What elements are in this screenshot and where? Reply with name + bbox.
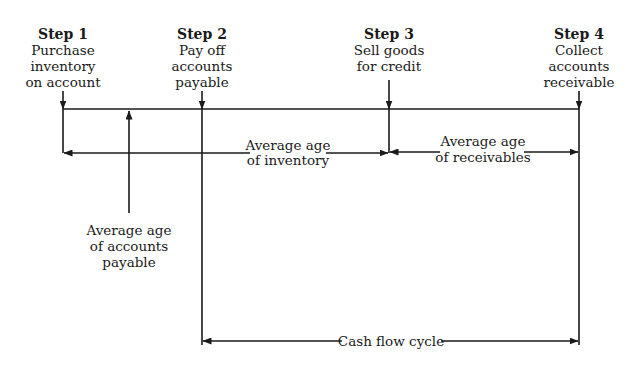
cash-flow-cycle-diagram: Step 1 Purchase inventory on account Ste… [0,0,644,368]
step-2-line-1: Pay off [179,42,227,58]
step-4-line-2: accounts [548,58,609,74]
step-3-title: Step 3 [364,26,414,42]
cash-flow-cycle-span: Cash flow cycle [203,333,578,349]
cash-flow-cycle-label: Cash flow cycle [338,333,444,349]
step-1-line-2: inventory [31,58,96,74]
step-2-line-3: payable [175,74,228,90]
step-1-label: Step 1 Purchase inventory on account [25,26,101,90]
step-4-line-3: receivable [544,74,615,90]
payable-label-line-2: of accounts [90,238,169,254]
payable-span: Average age of accounts payable [86,111,172,270]
receivables-label-line-1: Average age [440,133,526,149]
step-4-label: Step 4 Collect accounts receivable [544,26,615,90]
step-4-line-1: Collect [555,42,604,58]
payable-label-line-1: Average age [86,222,172,238]
step-2-line-2: accounts [171,58,232,74]
step-1-title: Step 1 [38,26,88,42]
receivables-label-line-2: of receivables [435,149,530,165]
step-1-line-1: Purchase [31,42,94,58]
step-1-line-3: on account [25,74,101,90]
inventory-span: Average age of inventory [64,137,388,168]
inventory-label-line-2: of inventory [247,152,330,168]
step-3-label: Step 3 Sell goods for credit [354,26,425,74]
payable-label-line-3: payable [102,254,155,270]
step-2-title: Step 2 [177,26,227,42]
step-3-line-1: Sell goods [354,42,425,58]
step-3-line-2: for credit [357,58,422,74]
receivables-span: Average age of receivables [390,133,578,165]
step-2-label: Step 2 Pay off accounts payable [171,26,232,90]
step-4-title: Step 4 [554,26,604,42]
inventory-label-line-1: Average age [245,137,331,153]
